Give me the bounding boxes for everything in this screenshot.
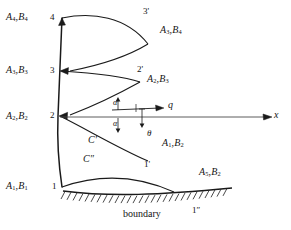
node-4-point-label: 4 [50,13,55,22]
field-label-a3b4-bsub: 4 [179,28,182,35]
field-label-a1b2: A1,B2 [162,138,184,149]
node-1-point-label: 1 [52,182,57,191]
field-label-a1b2-bsub: 2 [181,141,184,148]
alpha-lower-arrowhead [116,129,121,134]
characteristic-c-double-prime-label: C″ [83,154,94,164]
body-surface-curve [58,18,62,187]
node-2-point-label: 2 [50,111,55,120]
velocity-vector-label: q [168,100,173,110]
characteristic-2prime-to-2 [70,82,140,115]
velocity-vector-arrowhead [156,105,165,111]
field-label-a2b3-bsub: 3 [166,77,169,84]
x-axis-arrowhead [263,114,272,120]
riemann-label-a2b2: A2,B2 [6,111,28,122]
characteristic-c-prime-label: C' [88,135,97,145]
theta-arrowhead [140,124,145,129]
riemann-label-a4b4: A4,B4 [6,12,28,23]
node-4-arrowhead [59,18,66,25]
characteristic-3-to-2prime [61,71,140,82]
field-label-a5b2: A5,B2 [199,167,221,178]
riemann-label-a3b3: A3,B3 [6,65,28,76]
riemann-label-a2b2-bsub: 2 [25,114,28,121]
riemann-label-a1b1: A1,B1 [6,181,28,192]
boundary-caption: boundary [123,208,161,219]
node-2-prime-label: 2' [137,65,143,74]
node-3-point-label: 3 [50,66,55,75]
theta-angle-label: θ [147,129,152,138]
alpha-angle-lower-label: α [113,120,117,128]
riemann-label-a3b3-bsub: 3 [25,68,28,75]
characteristic-2-to-1prime [60,116,148,161]
riemann-label-a4b4-bsub: 4 [25,15,28,22]
boundary-line [63,188,232,195]
x-axis-label: x [274,110,279,120]
riemann-label-a1b1-bsub: 1 [25,184,28,191]
field-label-a3b4: A3,B4 [160,25,182,36]
node-3-prime-label: 3' [143,7,149,16]
wave-characteristics-diagram [0,0,291,230]
node-1-double-prime-label: 1″ [192,206,200,215]
field-label-a5b2-bsub: 2 [218,170,221,177]
characteristic-1-to-1doubleprime [62,178,174,192]
node-1-prime-label: 1' [144,160,150,169]
characteristic-4-to-3prime [62,16,148,44]
field-label-a2b3: A2,B3 [147,74,169,85]
alpha-angle-upper-label: α [113,99,117,107]
